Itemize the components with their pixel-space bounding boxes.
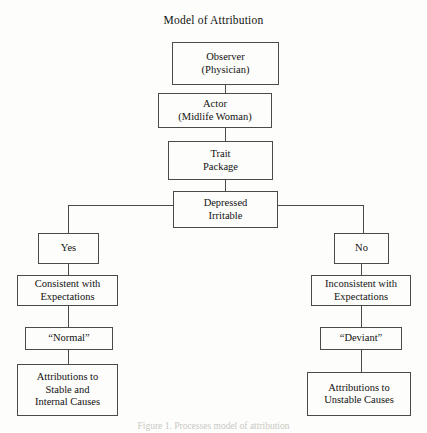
node-consistent-line2: Expectations — [40, 291, 94, 303]
node-normal-label: “Normal” — [48, 332, 89, 344]
connector-trait-to-symptom — [225, 180, 226, 191]
node-observer: Observer (Physician) — [172, 42, 279, 85]
connector-no-to-inconsistent — [361, 264, 362, 275]
node-observer-line1: Observer — [206, 51, 244, 63]
connector-left-branch-drop — [68, 205, 69, 233]
node-yes: Yes — [38, 233, 99, 264]
node-attributions-stable-internal: Attributions to Stable and Internal Caus… — [17, 364, 118, 416]
node-no: No — [334, 233, 389, 264]
connector-symptom-to-left-branch — [68, 205, 173, 206]
connector-normal-to-stable-internal — [68, 350, 69, 364]
node-inconsistent-line2: Expectations — [334, 291, 388, 303]
node-depressed-irritable: Depressed Irritable — [173, 191, 278, 228]
node-observer-line2: (Physician) — [202, 64, 250, 76]
node-inconsistent-with-expectations: Inconsistent with Expectations — [311, 275, 411, 306]
connector-symptom-to-right-branch — [278, 205, 364, 206]
connector-actor-to-trait — [225, 128, 226, 141]
node-yes-label: Yes — [61, 242, 76, 254]
node-unstable-line2: Unstable Causes — [324, 394, 394, 406]
node-actor-line2: (Midlife Woman) — [178, 111, 251, 123]
connector-inconsistent-to-deviant — [361, 306, 362, 327]
node-trait-package: Trait Package — [168, 141, 273, 180]
connector-right-branch-drop — [363, 205, 364, 233]
node-unstable-line1: Attributions to — [328, 382, 390, 394]
node-actor: Actor (Midlife Woman) — [158, 93, 272, 128]
connector-deviant-to-unstable — [361, 350, 362, 372]
figure-caption: Figure 1. Processes model of attribution — [0, 421, 427, 433]
node-symptom-line1: Depressed — [204, 197, 248, 209]
connector-consistent-to-normal — [68, 306, 69, 327]
node-stable-internal-line2: Stable and — [45, 384, 89, 396]
node-symptom-line2: Irritable — [209, 210, 243, 222]
node-consistent-with-expectations: Consistent with Expectations — [17, 275, 118, 306]
node-normal: “Normal” — [25, 327, 113, 350]
attribution-flowchart: Model of Attribution Observer (Physician… — [0, 0, 427, 433]
node-attributions-unstable: Attributions to Unstable Causes — [307, 372, 411, 416]
node-no-label: No — [355, 242, 368, 254]
node-actor-line1: Actor — [203, 98, 227, 110]
node-stable-internal-line1: Attributions to — [37, 371, 99, 383]
connector-observer-to-actor — [225, 85, 226, 93]
node-trait-line2: Package — [203, 161, 238, 173]
node-inconsistent-line1: Inconsistent with — [325, 278, 397, 290]
figure-title: Model of Attribution — [0, 14, 427, 26]
node-trait-line1: Trait — [210, 148, 230, 160]
node-deviant-label: “Deviant” — [340, 332, 383, 344]
node-deviant: “Deviant” — [320, 327, 402, 350]
node-consistent-line1: Consistent with — [35, 278, 101, 290]
node-stable-internal-line3: Internal Causes — [35, 396, 100, 408]
connector-yes-to-consistent — [68, 264, 69, 275]
